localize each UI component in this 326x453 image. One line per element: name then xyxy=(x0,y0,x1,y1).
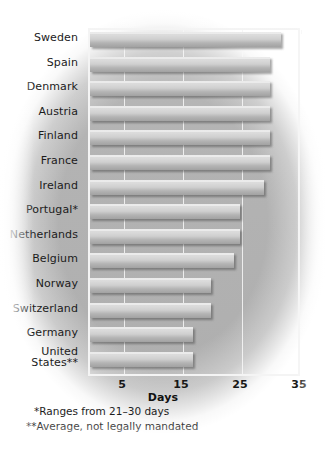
bar xyxy=(90,81,270,96)
bar xyxy=(90,278,211,293)
bar xyxy=(90,155,270,170)
category-label: Germany xyxy=(27,327,78,339)
x-tick-label: 25 xyxy=(232,378,247,391)
bar xyxy=(90,229,240,244)
bar xyxy=(90,327,193,342)
category-label: Spain xyxy=(47,57,78,69)
tick-mark xyxy=(301,30,302,34)
bar xyxy=(90,106,270,121)
category-label: Austria xyxy=(38,106,78,118)
x-tick-label: 5 xyxy=(118,378,126,391)
bar xyxy=(90,303,211,318)
bar xyxy=(90,204,240,219)
bar xyxy=(90,253,234,268)
x-axis-title: Days xyxy=(0,391,326,404)
x-tick-label: 15 xyxy=(173,378,188,391)
category-label: France xyxy=(41,155,78,167)
category-label: Switzerland xyxy=(13,303,78,315)
category-label: Belgium xyxy=(32,253,78,265)
vacation-days-bar-chart: SwedenSpainDenmarkAustriaFinlandFranceIr… xyxy=(0,0,326,453)
category-label: Sweden xyxy=(34,32,78,44)
bar xyxy=(90,130,270,145)
category-label: Ireland xyxy=(39,180,78,192)
bar-series xyxy=(90,30,298,374)
footnotes: *Ranges from 21–30 days **Average, not l… xyxy=(34,404,294,434)
category-label: Netherlands xyxy=(10,229,78,241)
footnote-double-asterisk: **Average, not legally mandated xyxy=(26,419,294,434)
category-label: United States** xyxy=(31,346,78,369)
category-axis-labels: SwedenSpainDenmarkAustriaFinlandFranceIr… xyxy=(0,28,84,376)
category-label: Norway xyxy=(36,278,78,290)
category-label: Finland xyxy=(38,130,78,142)
category-label: Denmark xyxy=(27,81,78,93)
category-label: Portugal* xyxy=(26,204,78,216)
bar xyxy=(90,352,193,367)
footnote-single-asterisk: *Ranges from 21–30 days xyxy=(34,404,294,419)
bar xyxy=(90,57,270,72)
bar xyxy=(90,32,281,47)
bar xyxy=(90,180,264,195)
x-tick-label: 35 xyxy=(291,378,306,391)
